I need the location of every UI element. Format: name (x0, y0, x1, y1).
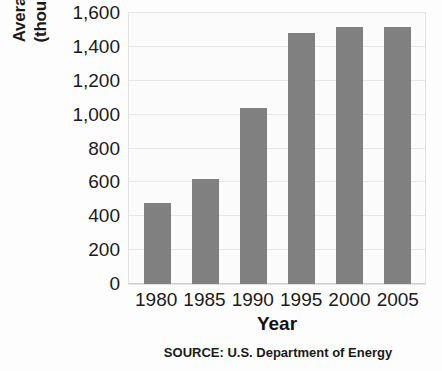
y-axis-tick-label: 800 (88, 138, 120, 157)
bar[interactable] (240, 108, 267, 284)
y-axis-title: Average Daily Imports (thousands of barr… (4, 0, 56, 80)
plot-area (128, 12, 426, 285)
bar-slot (229, 13, 277, 284)
bar-slot (325, 13, 373, 284)
source-note: SOURCE: U.S. Department of Energy (128, 345, 428, 361)
bar[interactable] (336, 27, 363, 284)
y-axis-tick-label: 1,600 (72, 3, 120, 22)
bar-chart-figure: Average Daily Imports (thousands of barr… (0, 0, 442, 371)
y-axis-tick-label: 0 (109, 274, 120, 293)
x-axis-tick-label: 1995 (277, 288, 325, 314)
bar[interactable] (384, 27, 411, 284)
bar[interactable] (144, 203, 171, 284)
x-axis-title: Year (128, 313, 426, 335)
bar-slot (373, 13, 421, 284)
x-axis-tick-label: 1985 (180, 288, 228, 314)
y-axis-tick-label: 1,200 (72, 70, 120, 89)
y-axis-title-line-2: (thousands of barrels) (30, 0, 51, 43)
y-axis-title-line-1: Average Daily Imports (9, 0, 30, 42)
y-axis-tick-label: 1,400 (72, 36, 120, 55)
bar-slot (181, 13, 229, 284)
x-axis-tick-label: 2000 (325, 288, 373, 314)
bar-slot (133, 13, 181, 284)
y-axis-tick-label: 200 (88, 240, 120, 259)
x-axis-tick-label: 1980 (132, 288, 180, 314)
x-axis-tick-label: 1990 (229, 288, 277, 314)
bar-series (129, 13, 425, 284)
x-axis-tick-labels: 198019851990199520002005 (128, 288, 426, 314)
bar[interactable] (192, 179, 219, 284)
y-axis-tick-labels: 02004006008001,0001,2001,4001,600 (58, 0, 124, 296)
bar[interactable] (288, 33, 315, 284)
bar-slot (277, 13, 325, 284)
y-axis-tick-label: 600 (88, 172, 120, 191)
y-axis-tick-label: 1,000 (72, 104, 120, 123)
y-axis-tick-label: 400 (88, 206, 120, 225)
x-axis-tick-label: 2005 (374, 288, 422, 314)
